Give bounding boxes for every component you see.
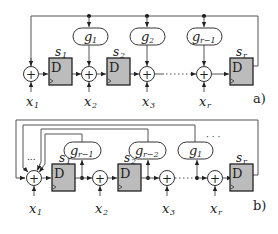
adder-1: +: [27, 171, 42, 186]
input-x1: x 1: [29, 201, 42, 217]
svg-text:D: D: [54, 166, 64, 181]
svg-text:1: 1: [62, 51, 67, 60]
diagram-a: g 1 g 2 g r−1 + + +: [24, 14, 266, 110]
svg-text:D: D: [109, 60, 119, 75]
input-x2: x 2: [95, 201, 108, 217]
diagram-b: ... · · · g r−1 g r−2 g 1 +: [16, 120, 266, 217]
svg-text:2: 2: [148, 36, 154, 45]
svg-text:s: s: [124, 151, 130, 165]
svg-text:x: x: [210, 201, 218, 216]
g-block-2: g 2: [130, 28, 165, 45]
svg-text:D: D: [232, 60, 242, 75]
svg-text:r: r: [218, 208, 223, 217]
svg-text:2: 2: [130, 157, 136, 166]
svg-text:x: x: [84, 94, 92, 109]
svg-text:r: r: [207, 101, 212, 110]
adder-2: +: [93, 171, 108, 186]
svg-text:r−2: r−2: [143, 150, 159, 159]
input-xr: x r: [199, 94, 212, 110]
svg-text:x: x: [26, 94, 34, 109]
svg-text:1: 1: [92, 36, 97, 45]
svg-text:D: D: [120, 166, 130, 181]
input-x1: x 1: [26, 94, 39, 110]
svg-text:3: 3: [150, 101, 155, 110]
svg-text:2: 2: [102, 208, 108, 217]
register-sr: D s r: [230, 45, 253, 85]
svg-text:1: 1: [34, 101, 39, 110]
g-block-1: g 1: [73, 28, 108, 45]
svg-text:x: x: [142, 94, 150, 109]
adder-r: +: [208, 171, 223, 186]
svg-text:+: +: [95, 172, 105, 186]
svg-text:D: D: [51, 60, 61, 75]
register-s1: D s 1: [49, 45, 72, 85]
svg-text:s: s: [236, 45, 242, 59]
svg-text:x: x: [162, 201, 170, 216]
top-ellipsis: · · ·: [206, 132, 220, 142]
input-x3: x 3: [162, 201, 175, 217]
register-s2: D s 2: [107, 45, 130, 85]
svg-text:+: +: [26, 68, 36, 82]
input-xr: x r: [210, 201, 223, 217]
svg-text:s: s: [236, 151, 242, 165]
svg-text:x: x: [29, 201, 37, 216]
svg-text:+: +: [84, 68, 94, 82]
feedback-g1-b: [23, 125, 195, 172]
svg-text:2: 2: [119, 51, 125, 60]
svg-text:x: x: [95, 201, 103, 216]
register-sr: D s r: [230, 151, 253, 191]
lfsr-diagram: g 1 g 2 g r−1 + + +: [0, 0, 278, 234]
adder-r: +: [197, 67, 212, 82]
input-x2: x 2: [84, 94, 97, 110]
label-b: b): [253, 198, 266, 213]
svg-text:+: +: [162, 172, 172, 186]
svg-text:s: s: [55, 45, 61, 59]
adder-3: +: [140, 67, 155, 82]
input-x3: x 3: [142, 94, 155, 110]
adder-1: +: [24, 67, 39, 82]
svg-text:+: +: [29, 172, 39, 186]
svg-text:r−1: r−1: [200, 36, 216, 45]
label-a: a): [253, 91, 266, 106]
adder-2: +: [82, 67, 97, 82]
svg-text:+: +: [199, 68, 209, 82]
svg-text:2: 2: [91, 101, 97, 110]
svg-text:s: s: [113, 45, 119, 59]
svg-text:1: 1: [66, 157, 71, 166]
svg-text:1: 1: [197, 150, 202, 159]
svg-text:+: +: [210, 172, 220, 186]
svg-text:r−1: r−1: [78, 150, 94, 159]
g-block-r-minus-1: g r−1: [187, 28, 222, 45]
adder-3: +: [160, 171, 175, 186]
svg-text:s: s: [59, 151, 65, 165]
svg-text:D: D: [232, 166, 242, 181]
svg-text:+: +: [142, 68, 152, 82]
svg-text:x: x: [199, 94, 207, 109]
g-block-1: g 1: [178, 142, 213, 159]
svg-text:3: 3: [170, 208, 175, 217]
feedback-ellipsis: ...: [27, 152, 36, 162]
svg-text:1: 1: [37, 208, 42, 217]
